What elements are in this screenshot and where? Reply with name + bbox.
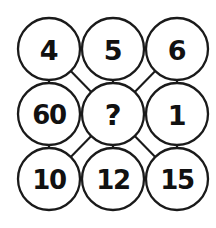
puzzle-canvas: 45660?1101215 — [0, 0, 216, 228]
connector-line — [135, 71, 156, 92]
node-layer: 45660?1101215 — [18, 18, 208, 210]
node-12: 12 — [82, 148, 144, 210]
node-label: 12 — [96, 165, 129, 195]
connector-line — [135, 136, 156, 157]
node-4: 4 — [18, 18, 80, 80]
node-label: 4 — [40, 35, 58, 66]
node-label: 10 — [32, 165, 66, 195]
node-unknown: ? — [82, 83, 144, 145]
connector-line — [71, 71, 92, 92]
node-6: 6 — [146, 18, 208, 80]
node-1: 1 — [146, 83, 208, 145]
node-label: 1 — [168, 100, 186, 131]
node-label: ? — [105, 98, 121, 132]
node-label: 60 — [32, 100, 66, 130]
node-label: 15 — [160, 165, 194, 195]
connector-line — [71, 136, 92, 157]
puzzle-diagram: 45660?1101215 — [0, 0, 216, 228]
node-label: 6 — [168, 35, 186, 66]
node-60: 60 — [18, 83, 80, 145]
node-10: 10 — [18, 148, 80, 210]
node-5: 5 — [82, 18, 144, 80]
node-label: 5 — [104, 35, 122, 66]
node-15: 15 — [146, 148, 208, 210]
